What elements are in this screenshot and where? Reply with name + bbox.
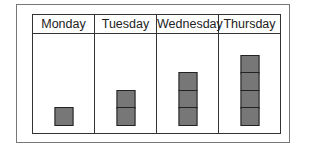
unit-block [240, 90, 259, 109]
column-thursday: Thursday [219, 15, 280, 133]
unit-block [54, 107, 73, 126]
unit-block [240, 72, 259, 91]
column-tuesday: Tuesday [95, 15, 157, 133]
unit-block [116, 90, 135, 109]
block-stack [54, 109, 73, 127]
unit-block [178, 72, 197, 91]
block-stack [178, 74, 197, 127]
block-stack [116, 91, 135, 126]
column-header: Wednesday [157, 15, 218, 34]
block-stack [240, 56, 259, 126]
unit-block [178, 107, 197, 126]
unit-block [178, 90, 197, 109]
column-header: Tuesday [95, 15, 156, 34]
column-header: Thursday [219, 15, 280, 34]
unit-block [240, 55, 259, 74]
unit-block [240, 107, 259, 126]
column-monday: Monday [33, 15, 95, 133]
unit-block [116, 107, 135, 126]
column-wednesday: Wednesday [157, 15, 219, 133]
column-header: Monday [33, 15, 94, 34]
pictograph-table: Monday Tuesday Wednesday Thursday [32, 14, 281, 134]
